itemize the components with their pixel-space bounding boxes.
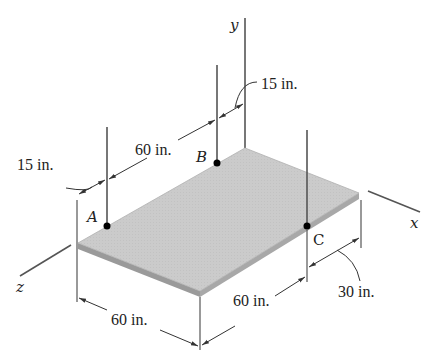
dim-label-front-left: 60 in. xyxy=(111,311,147,328)
leader-c-offset xyxy=(337,250,360,281)
z-axis-label: z xyxy=(15,278,24,296)
dim-a-to-b-2 xyxy=(178,120,215,140)
dim-b-offset xyxy=(219,104,243,118)
point-b-label: B xyxy=(195,148,207,166)
dim-label-left-offset: 15 in. xyxy=(17,156,53,173)
dim-front-left-2 xyxy=(160,330,198,346)
dim-label-b-offset: 15 in. xyxy=(261,75,297,92)
leader-b-offset xyxy=(235,82,257,108)
dim-label-c-offset: 30 in. xyxy=(338,283,374,300)
dim-label-a-to-b: 60 in. xyxy=(135,141,171,158)
dim-front-left-1 xyxy=(79,298,107,310)
x-axis-label: x xyxy=(410,214,419,232)
point-c xyxy=(304,223,311,230)
y-axis-label: y xyxy=(229,16,239,34)
point-a xyxy=(104,223,111,230)
point-b xyxy=(214,160,221,167)
z-axis xyxy=(20,245,71,276)
leader-left-offset xyxy=(66,187,92,190)
dim-front-right-2 xyxy=(275,277,305,296)
x-axis xyxy=(368,191,420,212)
plate-wire-diagram: y x z A B C 15 in. 60 in. 15 in. 60 in. … xyxy=(0,0,444,364)
dim-a-to-b-1 xyxy=(109,158,147,179)
dim-front-right-1 xyxy=(202,326,235,345)
dim-label-front-right: 60 in. xyxy=(233,292,269,309)
point-c-label: C xyxy=(313,231,324,249)
point-a-label: A xyxy=(85,208,98,226)
